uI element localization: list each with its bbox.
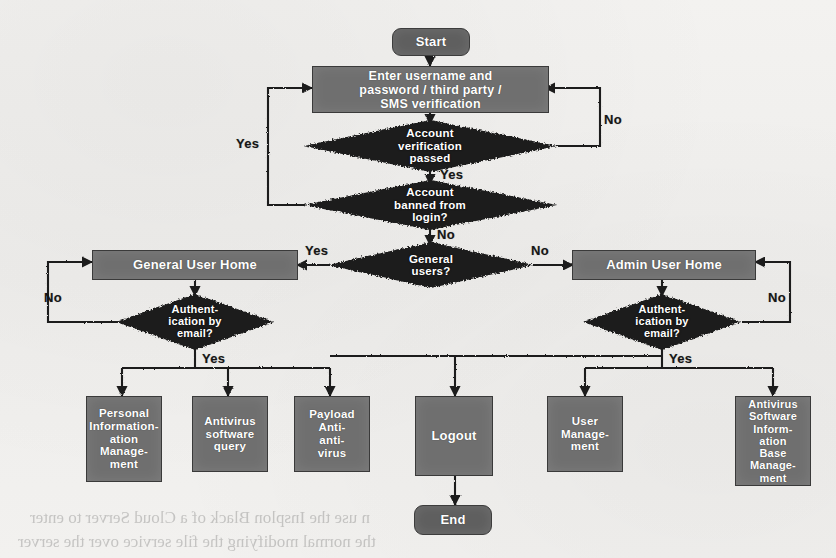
node-label: Enter username and password / third part… — [359, 69, 501, 111]
edge-label-verify-no: No — [604, 112, 622, 127]
process-user-management[interactable]: User Manage- ment — [547, 396, 623, 472]
terminator-end[interactable]: End — [414, 505, 492, 535]
node-label: User Manage- ment — [561, 415, 609, 454]
flowchart-page: Account verification passed Account bann… — [0, 0, 836, 558]
node-label: End — [440, 513, 465, 528]
decision-label: Authent- ication by email? — [168, 304, 221, 340]
decision-label: Authent- ication by email? — [635, 304, 688, 340]
process-general-user-home[interactable]: General User Home — [92, 250, 298, 280]
process-payload-anti-antivirus[interactable]: Payload Anti- anti- virus — [294, 396, 370, 472]
edge-label-auth-right-no: No — [768, 290, 786, 305]
node-label: Payload Anti- anti- virus — [309, 408, 355, 460]
node-label: Personal Information- ation Manage- ment — [89, 407, 158, 471]
node-label: Admin User Home — [606, 258, 722, 273]
edge-label-auth-left-yes: Yes — [202, 351, 225, 366]
node-label: General User Home — [133, 258, 257, 273]
process-logout[interactable]: Logout — [415, 396, 493, 476]
edge-label-auth-right-yes: Yes — [669, 351, 692, 366]
decision-label: Account banned from login? — [394, 186, 466, 223]
node-label: Antivirus Software Inform- ation Base Ma… — [748, 398, 797, 484]
process-antivirus-software-query[interactable]: Antivirus software query — [192, 396, 268, 472]
process-admin-user-home[interactable]: Admin User Home — [572, 250, 756, 280]
node-label: Logout — [431, 429, 476, 444]
decision-general-users[interactable]: General users? — [328, 242, 534, 288]
decision-authentication-by-email-admin[interactable]: Authent- ication by email? — [583, 294, 741, 350]
decision-label: Account verification passed — [398, 127, 462, 164]
process-enter-credentials[interactable]: Enter username and password / third part… — [312, 66, 549, 113]
process-antivirus-software-information-base-management[interactable]: Antivirus Software Inform- ation Base Ma… — [735, 396, 811, 486]
decision-authentication-by-email-general[interactable]: Authent- ication by email? — [116, 294, 274, 350]
edge-label-auth-left-no: No — [44, 290, 62, 305]
node-label: Antivirus software query — [204, 415, 256, 454]
decision-account-banned-from-login[interactable]: Account banned from login? — [303, 180, 557, 230]
process-personal-information-management[interactable]: Personal Information- ation Manage- ment — [86, 396, 162, 482]
decision-label: General users? — [409, 253, 453, 278]
edge-label-banned-yes: Yes — [236, 136, 259, 151]
decision-account-verification-passed[interactable]: Account verification passed — [303, 120, 557, 172]
terminator-start[interactable]: Start — [392, 28, 470, 56]
node-label: Start — [416, 35, 447, 50]
edge-label-general-yes: Yes — [305, 243, 328, 258]
